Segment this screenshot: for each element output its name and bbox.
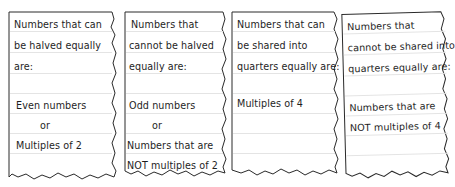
card-text-line: Numbers that xyxy=(347,20,415,34)
card-quarters: Numbers that can be shared into quarters… xyxy=(231,11,341,177)
card-text-line: be shared into xyxy=(237,40,308,52)
card-text-line: NOT multiples of 4 xyxy=(350,120,441,134)
card-halved: Numbers that can be halved equally are: … xyxy=(8,11,118,181)
card-text-line: be halved equally xyxy=(14,40,101,52)
card-text-line: Numbers that are xyxy=(349,100,436,114)
card-text-line: Numbers that xyxy=(131,19,198,31)
card-text-line: quarters equally are: xyxy=(237,61,340,73)
card-text-line: Numbers that can xyxy=(14,19,102,31)
card-text-line: Numbers that are xyxy=(127,140,213,152)
card-text-line: Multiples of 4 xyxy=(237,98,303,110)
card-text-line: or xyxy=(40,120,50,132)
card-text-line: cannot be halved xyxy=(129,40,214,52)
card-text-line: NOT multiples of 2 xyxy=(127,160,218,172)
card-not-halved: Numbers that cannot be halved equally ar… xyxy=(124,11,229,179)
card-text-line: or xyxy=(152,120,162,132)
card-text-line: Odd numbers xyxy=(129,100,195,112)
card-text-line: Numbers that can xyxy=(237,19,325,31)
card-text-line: Even numbers xyxy=(16,100,86,112)
card-text-line: equally are: xyxy=(129,61,187,73)
card-not-quarters: Numbers that cannot be shared into quart… xyxy=(341,11,455,182)
torn-paper-border xyxy=(8,11,118,181)
card-text-line: are: xyxy=(14,61,33,73)
card-text-line: Multiples of 2 xyxy=(16,140,82,152)
